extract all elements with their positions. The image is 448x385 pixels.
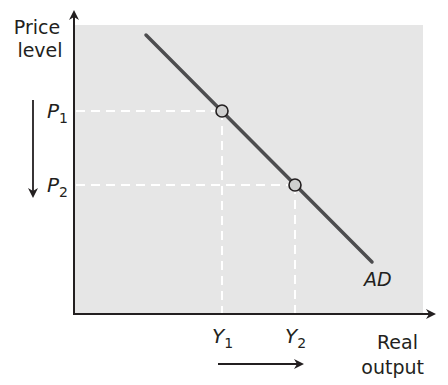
- ad-chart: Price level P1 P2 Y1 Y2 Real output AD: [0, 0, 448, 385]
- ad-curve-label: AD: [362, 268, 392, 290]
- point-p1-y1: [216, 105, 228, 117]
- y-axis-label: Price level: [14, 16, 66, 61]
- tick-p1: P1: [47, 99, 68, 126]
- point-p2-y2: [289, 179, 301, 191]
- tick-y2: Y2: [285, 324, 306, 351]
- tick-p2: P2: [47, 173, 68, 200]
- x-axis-label: Real output: [361, 331, 424, 378]
- tick-y1: Y1: [212, 324, 233, 351]
